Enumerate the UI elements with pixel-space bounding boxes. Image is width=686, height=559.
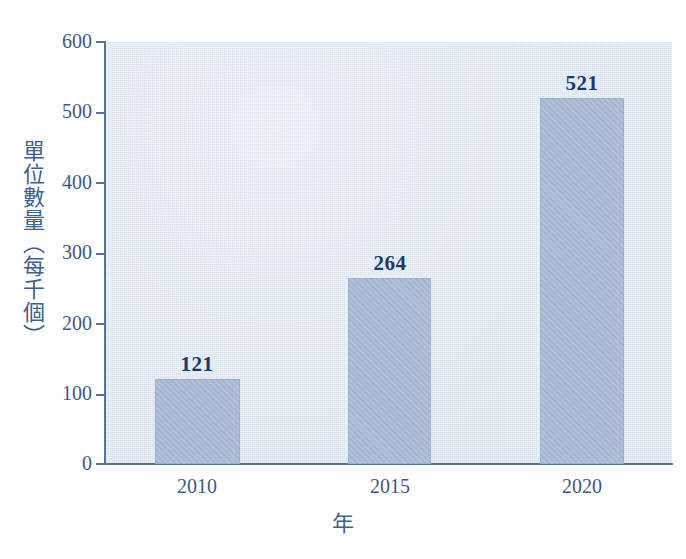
bar-value-label-2020: 521 bbox=[532, 71, 632, 96]
y-tick-label-100: 100 bbox=[46, 382, 92, 405]
x-tick-label-2010: 2010 bbox=[147, 475, 247, 498]
y-tick-label-0: 0 bbox=[46, 452, 92, 475]
bar-value-label-2015: 264 bbox=[340, 251, 440, 276]
y-tick-label-400: 400 bbox=[46, 171, 92, 194]
bar-2015[interactable] bbox=[348, 278, 431, 464]
y-tick-label-300: 300 bbox=[46, 241, 92, 264]
bar-chart-figure: 單位數量（每千個） 600 500 400 300 200 100 0 121 … bbox=[0, 0, 686, 559]
x-tick-label-2015: 2015 bbox=[340, 475, 440, 498]
bar-2010[interactable] bbox=[155, 379, 240, 464]
bar-value-label-2010: 121 bbox=[147, 352, 247, 377]
y-axis-line bbox=[104, 41, 106, 465]
x-axis-title: 年 bbox=[0, 505, 686, 537]
y-tick-label-500: 500 bbox=[46, 100, 92, 123]
y-tick-label-600: 600 bbox=[46, 30, 92, 53]
y-axis-title: 單位數量（每千個） bbox=[8, 140, 42, 347]
y-tick-label-200: 200 bbox=[46, 312, 92, 335]
bar-2020[interactable] bbox=[540, 98, 624, 464]
x-tick-label-2020: 2020 bbox=[532, 475, 632, 498]
